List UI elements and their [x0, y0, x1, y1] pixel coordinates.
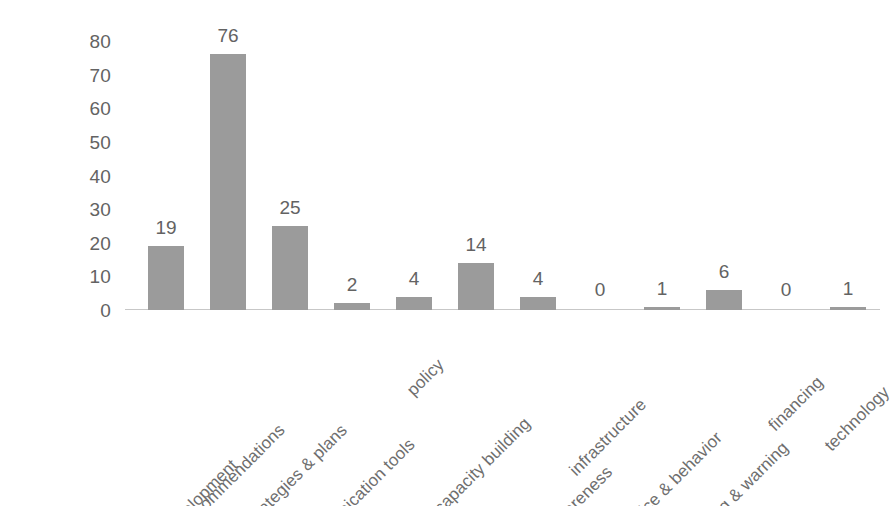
bar-value-label: 1 [631, 279, 693, 298]
x-axis-category-label[interactable]: policy [404, 356, 447, 399]
x-axis-category-label[interactable]: capacity building [431, 415, 533, 506]
y-axis-tick-label: 30 [89, 200, 111, 219]
bar-value-label: 4 [507, 269, 569, 288]
bar[interactable] [210, 54, 246, 310]
bar-slot: 1 [817, 41, 879, 310]
bar-slot: 25 [259, 41, 321, 310]
bar[interactable] [458, 263, 494, 310]
y-axis-tick-label: 0 [100, 301, 111, 320]
bar-slot: 1 [631, 41, 693, 310]
y-axis-tick-label: 10 [89, 267, 111, 286]
x-axis-category-label[interactable]: financing [765, 373, 826, 434]
bar[interactable] [520, 297, 556, 310]
bar[interactable] [334, 303, 370, 310]
bar-value-label: 25 [259, 198, 321, 217]
bar-value-label: 14 [445, 235, 507, 254]
bar-chart: 80706050403020100 1976252414401601 resea… [0, 0, 895, 506]
bar-slot: 76 [197, 41, 259, 310]
bar-slot: 4 [507, 41, 569, 310]
bar[interactable] [706, 290, 742, 310]
bar-value-label: 1 [817, 279, 879, 298]
y-axis-tick-label: 60 [89, 99, 111, 118]
bar-value-label: 6 [693, 262, 755, 281]
x-axis-category-label[interactable]: infrastructure [566, 396, 649, 479]
bar-value-label: 19 [135, 218, 197, 237]
y-axis-tick-label: 50 [89, 132, 111, 151]
bar-value-label: 4 [383, 269, 445, 288]
y-axis-tick-label: 80 [89, 32, 111, 51]
bar[interactable] [644, 307, 680, 310]
bar[interactable] [396, 297, 432, 310]
bar[interactable] [830, 307, 866, 310]
y-axis-tick-label: 40 [89, 166, 111, 185]
bar-value-label: 76 [197, 26, 259, 45]
y-axis-tick-label: 20 [89, 233, 111, 252]
bar-slot: 19 [135, 41, 197, 310]
bar-value-label: 2 [321, 275, 383, 294]
bar-value-label: 0 [755, 280, 817, 299]
bar-slot: 2 [321, 41, 383, 310]
bar-slot: 14 [445, 41, 507, 310]
bar-slot: 6 [693, 41, 755, 310]
plot-area: 80706050403020100 1976252414401601 [125, 41, 880, 310]
bar[interactable] [272, 226, 308, 310]
bar-slot: 0 [569, 41, 631, 310]
bar-slot: 0 [755, 41, 817, 310]
x-axis-category-label[interactable]: technology [822, 383, 893, 454]
bar[interactable] [148, 246, 184, 310]
x-axis-category-label[interactable]: practice & behavior [609, 429, 725, 506]
y-axis-tick-label: 70 [89, 65, 111, 84]
bar-value-label: 0 [569, 280, 631, 299]
bar-slot: 4 [383, 41, 445, 310]
